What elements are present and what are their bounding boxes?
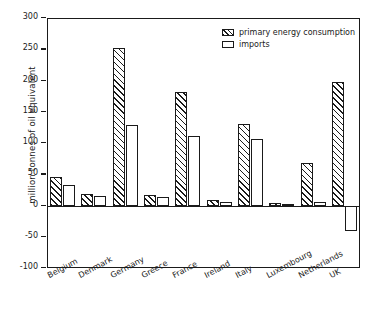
bar [269, 203, 281, 206]
bar [50, 177, 62, 205]
y-tick-label: 300 [0, 12, 38, 21]
legend-label: imports [239, 40, 270, 49]
bar [94, 196, 106, 205]
bar [282, 204, 294, 206]
y-tick-label: -100 [0, 262, 38, 271]
bar [301, 163, 313, 206]
bar [251, 139, 263, 206]
bar [63, 185, 75, 206]
legend-item: primary energy consumption [222, 27, 355, 38]
y-tick-mark [41, 267, 46, 268]
y-tick-mark [41, 142, 46, 143]
y-tick-mark [41, 236, 46, 237]
y-tick-mark [41, 205, 46, 206]
y-tick-label: 50 [0, 168, 38, 177]
legend-swatch [222, 29, 234, 36]
y-tick-mark [41, 80, 46, 81]
y-tick-label: 150 [0, 106, 38, 115]
energy-bar-chart: million tonnes of oil equivalent 3002502… [0, 0, 375, 318]
legend-label: primary energy consumption [239, 28, 355, 37]
y-tick-label: 100 [0, 137, 38, 146]
bar [314, 202, 326, 205]
bar [188, 136, 200, 206]
legend-item: imports [222, 39, 355, 50]
bar [113, 48, 125, 206]
y-tick-label: -50 [0, 231, 38, 240]
y-tick-mark [41, 173, 46, 174]
bar [332, 82, 344, 206]
bar [175, 92, 187, 205]
y-tick-label: 200 [0, 75, 38, 84]
x-tick-label: UK [328, 267, 342, 280]
bar [345, 206, 357, 231]
y-tick-mark [41, 48, 46, 49]
bar [126, 125, 138, 206]
bar [207, 200, 219, 206]
y-tick-mark [41, 111, 46, 112]
bar [157, 197, 169, 205]
y-tick-mark [41, 17, 46, 18]
bar [238, 124, 250, 206]
bar [144, 195, 156, 206]
y-tick-label: 0 [0, 200, 38, 209]
legend-swatch [222, 41, 234, 48]
bars-layer [47, 18, 360, 268]
bar [220, 202, 232, 205]
chart-legend: primary energy consumptionimports [222, 27, 355, 51]
bar [81, 194, 93, 206]
y-tick-label: 250 [0, 43, 38, 52]
